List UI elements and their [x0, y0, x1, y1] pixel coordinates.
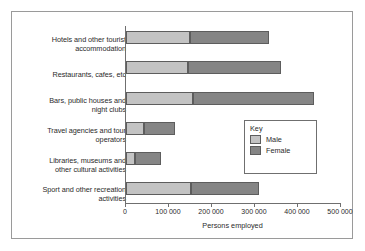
bar-row[interactable]: [126, 92, 314, 105]
bar-row[interactable]: [126, 122, 175, 135]
category-label-2: Bars, public houses and night clubs: [14, 97, 126, 114]
bar-row[interactable]: [126, 61, 281, 74]
legend-label-female: Female: [266, 146, 290, 155]
category-label-0: Hotels and other tourist accommodation: [14, 36, 126, 53]
legend-item-male[interactable]: Male: [250, 135, 316, 144]
x-tick: [254, 203, 255, 207]
legend-label-male: Male: [266, 135, 282, 144]
x-tick: [297, 203, 298, 207]
y-axis-line: [125, 26, 126, 204]
x-axis-title: Persons employed: [125, 221, 340, 230]
x-tick-label: 0: [123, 208, 127, 215]
legend-title: Key: [250, 124, 316, 133]
category-label-3: Travel agencies and tour operators: [14, 127, 126, 144]
bar-segment-male[interactable]: [126, 152, 135, 165]
bar-segment-female[interactable]: [188, 61, 280, 74]
category-label-4: Libraries, museums and other cultural ac…: [14, 157, 126, 174]
x-tick: [211, 203, 212, 207]
bar-segment-male[interactable]: [126, 122, 144, 135]
legend-swatch-male-icon: [250, 135, 261, 144]
x-tick-label: 300 000: [241, 208, 266, 215]
x-tick-label: 400 000: [284, 208, 309, 215]
bar-segment-male[interactable]: [126, 31, 190, 44]
bar-segment-female[interactable]: [191, 182, 260, 195]
bar-segment-male[interactable]: [126, 92, 193, 105]
plot-area: Hotels and other tourist accommodation R…: [12, 12, 354, 240]
bar-segment-female[interactable]: [193, 92, 315, 105]
x-axis-line: [125, 203, 340, 204]
x-tick-label: 200 000: [198, 208, 223, 215]
bar-row[interactable]: [126, 182, 259, 195]
category-label-5: Sport and other recreation activities: [14, 186, 126, 203]
bar-row[interactable]: [126, 31, 269, 44]
bar-segment-male[interactable]: [126, 182, 191, 195]
bar-segment-female[interactable]: [190, 31, 270, 44]
category-label-1: Restaurants, cafes, etc: [14, 71, 126, 80]
bar-row[interactable]: [126, 152, 161, 165]
chart-frame: Hotels and other tourist accommodation R…: [11, 11, 353, 239]
x-tick: [340, 203, 341, 207]
x-tick: [168, 203, 169, 207]
x-tick: [125, 203, 126, 207]
bar-segment-female[interactable]: [135, 152, 161, 165]
legend-swatch-female-icon: [250, 146, 261, 155]
legend-item-female[interactable]: Female: [250, 146, 316, 155]
legend: Key Male Female: [244, 120, 317, 174]
bar-segment-female[interactable]: [144, 122, 175, 135]
bar-segment-male[interactable]: [126, 61, 188, 74]
x-tick-label: 100 000: [155, 208, 180, 215]
x-tick-label: 500 000: [327, 208, 352, 215]
